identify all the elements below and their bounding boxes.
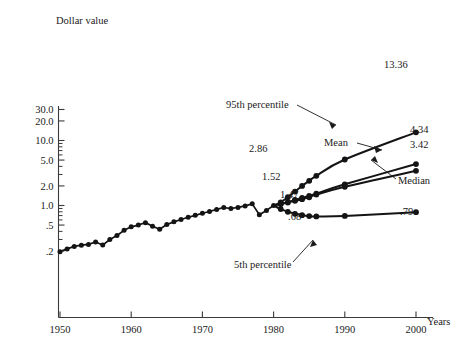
data-point [207,209,212,214]
value-label-79: .79 [400,206,413,217]
leader-95th [297,105,336,125]
data-point [264,208,269,213]
arrow-median [371,156,378,163]
x-tick-label: 1950 [50,324,71,335]
y-tick-label: .5 [46,220,54,231]
data-point [228,206,233,211]
data-point [250,201,255,206]
y-axis-title: Dollar value [56,15,109,26]
chart-canvas: Dollar value Years 30.020.010.05.02.01.0… [0,0,467,359]
data-point [413,161,419,167]
leader-5th [293,240,313,262]
data-point [86,242,91,247]
series-layer [58,129,419,254]
data-point [93,239,98,244]
data-point [186,215,191,220]
value-label-13-36: 13.36 [384,59,408,70]
data-point [150,224,155,229]
x-tick-label: 1970 [192,324,213,335]
data-point [342,157,348,163]
value-label-68: .68 [288,211,301,222]
data-point [122,228,127,233]
value-label-1-47: 1.47 [280,189,298,200]
value-label-2-86: 2.86 [249,143,267,154]
y-tick-label: 30.0 [35,104,53,115]
data-point [65,246,70,251]
data-point [342,213,348,219]
y-tick-label: 2.0 [40,181,53,192]
data-point [157,227,162,232]
data-point [285,200,291,206]
data-point [100,243,105,248]
x-tick-label: 1980 [263,324,284,335]
data-point [313,192,319,198]
y-tick-label: .2 [46,246,54,257]
data-point [58,249,63,254]
arrow-5th [310,240,317,247]
y-axis: 30.020.010.05.02.01.0.5.2 [35,104,64,317]
annotation-label-median: Median [398,175,431,186]
data-point [306,213,312,219]
data-point [342,184,348,190]
data-point [257,212,262,217]
data-point [221,205,226,210]
data-point [313,213,319,219]
data-point [129,224,134,229]
x-axis: 195019601970198019902000 [50,312,434,335]
annotation-label-mean: Mean [324,137,349,148]
data-point [143,220,148,225]
annotation-layer: 95th percentileMeanMedian5th percentile1… [226,59,431,270]
data-point [136,223,141,228]
x-tick-label: 1960 [121,324,142,335]
data-point [299,183,305,189]
data-point [193,213,198,218]
fan-chart: Dollar value Years 30.020.010.05.02.01.0… [0,0,467,359]
data-point [236,205,241,210]
value-label-4-34: 4.34 [410,124,429,135]
y-tick-label: 5.0 [40,155,53,166]
value-label-3-42: 3.42 [410,139,428,150]
data-point [278,201,284,207]
y-tick-label: 10.0 [35,135,53,146]
data-point [107,237,112,242]
value-label-5th-percentile: 5th percentile [234,259,292,270]
value-label-95th-percentile: 95th percentile [226,99,289,110]
data-point [413,168,419,174]
x-tick-label: 1990 [334,324,355,335]
data-point [278,206,284,212]
data-point [313,173,319,179]
data-point [243,203,248,208]
data-point [79,243,84,248]
value-label-1-52: 1.52 [262,171,280,182]
data-point [299,196,305,202]
y-tick-label: 20.0 [35,116,53,127]
data-point [164,222,169,227]
data-point [214,207,219,212]
data-point [114,233,119,238]
data-point [306,178,312,184]
data-point [200,211,205,216]
x-tick-label: 2000 [406,324,427,335]
data-point [72,244,77,249]
y-tick-label: 1.0 [40,200,53,211]
series-line-historical [60,204,274,252]
data-point [179,217,184,222]
data-point [171,219,176,224]
data-point [306,194,312,200]
data-point [413,209,419,215]
